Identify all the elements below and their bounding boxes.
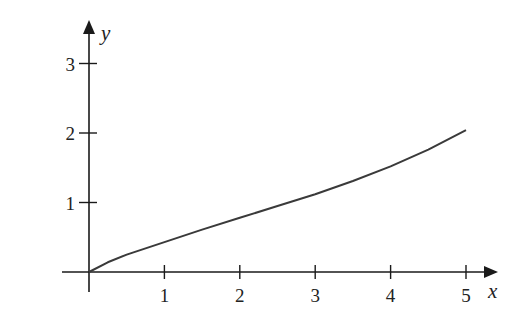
y-ticks: 123: [66, 54, 98, 214]
chart: x y 12345 123: [0, 0, 530, 322]
data-curve: [89, 130, 466, 272]
x-tick-label: 3: [310, 285, 320, 306]
y-axis: y: [83, 20, 111, 292]
y-tick-label: 2: [66, 123, 76, 144]
x-tick-label: 2: [235, 285, 245, 306]
x-tick-label: 4: [386, 285, 396, 306]
x-axis-arrow-icon: [484, 266, 498, 278]
y-tick-label: 1: [66, 193, 76, 214]
x-ticks: 12345: [160, 265, 471, 306]
x-axis: x: [62, 266, 498, 303]
y-tick-label: 3: [66, 54, 76, 75]
y-axis-label: y: [99, 21, 111, 45]
x-tick-label: 5: [461, 285, 471, 306]
y-axis-arrow-icon: [83, 20, 95, 34]
x-axis-label: x: [487, 279, 498, 303]
x-tick-label: 1: [160, 285, 170, 306]
